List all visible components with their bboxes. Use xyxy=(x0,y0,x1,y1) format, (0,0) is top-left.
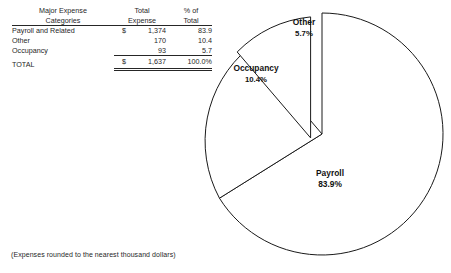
total-label: TOTAL xyxy=(12,56,114,70)
pie-label-occupancy-value: 10.4% xyxy=(245,75,267,84)
table-row: Payroll and Related $ 1,374 83.9 xyxy=(12,26,212,36)
pie-label-payroll-value: 83.9% xyxy=(318,179,342,189)
pie-label-occupancy-name: Occupancy xyxy=(233,63,278,73)
column-header-category: Major Expense Categories xyxy=(12,6,114,26)
table-total-row: TOTAL $ 1,637 100.0% xyxy=(12,56,212,70)
column-header-category-line1: Major Expense xyxy=(12,6,114,16)
table-row: Other 170 10.4 xyxy=(12,36,212,46)
table-head: Major Expense Categories Total Expense %… xyxy=(12,6,212,26)
expense-figure: Major Expense Categories Total Expense %… xyxy=(0,0,451,273)
pie-chart: Payroll 83.9% Other 5.7% Occupancy 10.4% xyxy=(190,0,451,273)
currency-symbol xyxy=(114,36,122,46)
pie-label-other-value: 5.7% xyxy=(295,29,313,38)
column-header-expense: Total Expense xyxy=(114,6,170,26)
total-expense: $ 1,637 xyxy=(114,56,170,70)
row-expense: 170 xyxy=(114,36,170,46)
row-expense-money: 93 xyxy=(114,46,170,56)
row-expense: $ 1,374 xyxy=(114,26,170,36)
currency-symbol: $ xyxy=(114,57,126,67)
row-category: Other xyxy=(12,36,114,46)
row-expense-value: 1,374 xyxy=(148,26,166,36)
pie-label-other-name: Other xyxy=(293,17,316,27)
table-header-row: Major Expense Categories Total Expense %… xyxy=(12,6,212,26)
row-expense-value: 93 xyxy=(158,46,166,56)
row-category: Occupancy xyxy=(12,46,114,56)
row-expense-money: $ 1,374 xyxy=(114,26,170,36)
currency-symbol: $ xyxy=(114,26,126,36)
row-category: Payroll and Related xyxy=(12,26,114,36)
row-expense: 93 xyxy=(114,46,170,56)
table-body: Payroll and Related $ 1,374 83.9 Other xyxy=(12,26,212,70)
total-expense-money: $ 1,637 xyxy=(114,57,170,67)
total-expense-value: 1,637 xyxy=(148,57,166,67)
pie-label-payroll-name: Payroll xyxy=(316,168,344,178)
footnote: (Expenses rounded to the nearest thousan… xyxy=(11,251,176,258)
expense-table-container: Major Expense Categories Total Expense %… xyxy=(12,6,212,71)
expense-table: Major Expense Categories Total Expense %… xyxy=(12,6,212,71)
row-expense-money: 170 xyxy=(114,36,170,46)
table-row: Occupancy 93 5.7 xyxy=(12,46,212,56)
row-expense-value: 170 xyxy=(154,36,166,46)
column-header-category-line2: Categories xyxy=(12,16,114,26)
currency-symbol xyxy=(114,46,122,56)
column-header-expense-line1: Total xyxy=(114,6,170,16)
column-header-expense-line2: Expense xyxy=(114,16,170,26)
